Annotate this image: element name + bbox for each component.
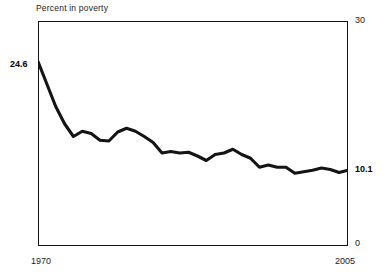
x-axis-start-label: 1970: [31, 256, 51, 266]
y-axis-min-label: 0: [355, 238, 360, 248]
series-line-percent-in-poverty: [38, 62, 348, 174]
chart-title: Percent in poverty: [36, 3, 108, 13]
y-axis-max-label: 30: [355, 15, 365, 25]
chart-page: Percent in poverty 30 0 1970 2005 24.6 1…: [0, 0, 386, 277]
end-value-annotation: 10.1: [355, 164, 373, 174]
start-value-annotation: 24.6: [10, 59, 28, 69]
x-axis-end-label: 2005: [335, 256, 355, 266]
poverty-line-chart: [38, 21, 348, 246]
